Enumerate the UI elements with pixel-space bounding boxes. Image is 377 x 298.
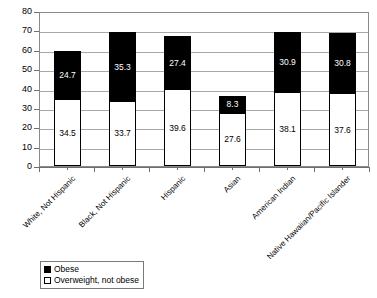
y-tick-label: 30 [2, 104, 32, 113]
bar-value-label-overweight: 38.1 [275, 125, 300, 134]
bar-value-label-obese: 8.3 [220, 100, 245, 109]
bar-stack[interactable]: 39.627.4 [164, 11, 191, 166]
bar-value-label-overweight: 39.6 [165, 124, 190, 133]
y-tick-label: 80 [2, 7, 32, 16]
bar-segment-obese[interactable]: 24.7 [54, 51, 81, 99]
x-tick [39, 167, 40, 172]
bar-stack[interactable]: 34.524.7 [54, 11, 81, 166]
x-tick-minor [67, 167, 68, 170]
x-tick [204, 167, 205, 172]
y-tick-label: 10 [2, 143, 32, 152]
plot-area: 34.524.733.735.339.627.427.68.338.130.93… [39, 12, 369, 167]
chart-legend: Obese Overweight, not obese [40, 261, 144, 289]
x-tick-minor [232, 167, 233, 170]
x-category-label: American Indian [250, 174, 297, 221]
bar-stack[interactable]: 37.630.8 [329, 11, 356, 166]
y-tick-label: 50 [2, 65, 32, 74]
gridline [40, 71, 368, 72]
legend-swatch-overweight-icon [44, 277, 51, 284]
x-category-label: Asian [221, 174, 242, 195]
bar-value-label-overweight: 37.6 [330, 126, 355, 135]
gridline [40, 52, 368, 53]
bar-value-label-obese: 30.9 [275, 58, 300, 67]
x-category-label: Hispanic [159, 174, 187, 202]
bar-segment-overweight[interactable]: 27.6 [219, 113, 246, 166]
bar-value-label-overweight: 33.7 [110, 129, 135, 138]
bar-segment-overweight[interactable]: 33.7 [109, 101, 136, 166]
bar-segment-obese[interactable]: 27.4 [164, 36, 191, 89]
y-tick-label: 70 [2, 26, 32, 35]
bar-segment-obese[interactable]: 35.3 [109, 32, 136, 100]
y-tick-label: 0 [2, 162, 32, 171]
bar-stack[interactable]: 33.735.3 [109, 11, 136, 166]
gridline [40, 149, 368, 150]
legend-item: Overweight, not obese [44, 275, 139, 286]
bar-stack[interactable]: 27.68.3 [219, 11, 246, 166]
bar-segment-overweight[interactable]: 37.6 [329, 93, 356, 166]
bar-segment-overweight[interactable]: 34.5 [54, 99, 81, 166]
bar-segment-overweight[interactable]: 39.6 [164, 89, 191, 166]
x-tick-minor [122, 167, 123, 170]
legend-label-overweight: Overweight, not obese [54, 276, 139, 285]
bar-stack[interactable]: 38.130.9 [274, 11, 301, 166]
bar-value-label-overweight: 34.5 [55, 129, 80, 138]
bar-value-label-obese: 27.4 [165, 59, 190, 68]
x-tick-minor [287, 167, 288, 170]
x-tick [259, 167, 260, 172]
y-tick-label: 20 [2, 123, 32, 132]
bar-segment-obese[interactable]: 8.3 [219, 96, 246, 112]
legend-swatch-obese-icon [44, 266, 51, 273]
y-tick-label: 60 [2, 46, 32, 55]
y-tick-label: 40 [2, 85, 32, 94]
stacked-bar-chart: 01020304050607080 34.524.733.735.339.627… [0, 0, 377, 298]
x-tick-minor [177, 167, 178, 170]
legend-label-obese: Obese [54, 265, 79, 274]
gridline [40, 32, 368, 33]
bar-segment-overweight[interactable]: 38.1 [274, 92, 301, 166]
gridline [40, 129, 368, 130]
x-category-label: White, Not Hispanic [21, 174, 77, 230]
x-tick [94, 167, 95, 172]
bar-value-label-overweight: 27.6 [220, 135, 245, 144]
x-category-label: Black, Not Hispanic [76, 174, 131, 229]
x-tick [314, 167, 315, 172]
gridline [40, 91, 368, 92]
gridline [40, 110, 368, 111]
x-tick-minor [342, 167, 343, 170]
x-tick [149, 167, 150, 172]
bar-value-label-obese: 30.8 [330, 59, 355, 68]
bar-value-label-obese: 35.3 [110, 63, 135, 72]
bar-segment-obese[interactable]: 30.9 [274, 32, 301, 92]
x-tick [369, 167, 370, 172]
legend-item: Obese [44, 264, 139, 275]
bar-segment-obese[interactable]: 30.8 [329, 33, 356, 93]
bar-value-label-obese: 24.7 [55, 71, 80, 80]
